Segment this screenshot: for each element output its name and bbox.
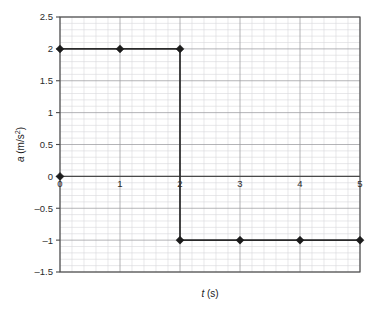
y-tick-label: 1.5 — [40, 75, 53, 86]
y-tick-label: –1 — [42, 235, 53, 246]
chart-background — [0, 0, 382, 313]
y-tick-label: –0.5 — [35, 203, 54, 214]
y-tick-label: 0.5 — [40, 139, 53, 150]
y-tick-label: 0 — [48, 171, 53, 182]
acceleration-vs-time-chart: 2.521.510.50–0.5–1–1.5 012345 t (s) a (m… — [0, 0, 382, 313]
x-tick-label: 3 — [237, 178, 242, 189]
x-tick-label: 5 — [357, 178, 362, 189]
y-tick-label: 2 — [48, 43, 53, 54]
chart-canvas: 2.521.510.50–0.5–1–1.5 012345 t (s) a (m… — [0, 0, 382, 313]
x-axis-title: t (s) — [201, 288, 218, 299]
x-tick-label: 1 — [117, 178, 122, 189]
y-tick-label: 1 — [48, 107, 53, 118]
y-tick-label: –1.5 — [35, 266, 54, 277]
x-tick-label: 4 — [297, 178, 302, 189]
y-tick-label: 2.5 — [40, 11, 53, 22]
